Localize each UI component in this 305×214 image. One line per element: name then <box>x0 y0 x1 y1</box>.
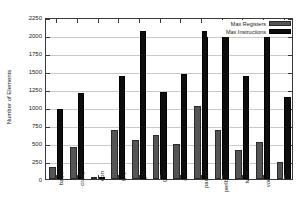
plot-area <box>45 18 293 180</box>
bar-max-registers <box>91 177 98 179</box>
y-axis-tick-label: 750 <box>18 123 42 129</box>
y-axis-tick-labels: 0250500750100012501500175020002250 <box>16 18 42 180</box>
x-axis-tick-label: bzip2 <box>58 171 65 211</box>
y-axis-tick-label: 2250 <box>18 15 42 21</box>
y-axis-tick <box>46 91 50 92</box>
legend-entry-max-instructions: Max Instructions <box>207 28 291 35</box>
y-axis-tick-label: 1500 <box>18 69 42 75</box>
x-axis-tick <box>201 19 202 23</box>
legend-label-max-instructions: Max Instructions <box>226 29 266 35</box>
bar-max-instructions <box>222 31 229 179</box>
x-axis-tick <box>77 175 78 179</box>
y-axis-tick <box>288 73 292 74</box>
x-axis-tick-label: mcf <box>182 171 189 211</box>
bar-max-registers <box>277 162 284 179</box>
x-axis-tick <box>201 175 202 179</box>
y-axis-tick <box>46 55 50 56</box>
gridline <box>46 55 292 56</box>
bar-max-instructions <box>140 31 147 179</box>
x-axis-tick-label: gzip <box>161 171 168 211</box>
y-axis-tick-label: 500 <box>18 141 42 147</box>
y-axis-tick <box>46 37 50 38</box>
bar-chart: Number of Elements 025050075010001250150… <box>0 0 305 214</box>
y-axis-tick <box>46 145 50 146</box>
legend-label-max-registers: Max Registers <box>231 21 266 27</box>
legend-swatch-max-registers <box>269 21 291 26</box>
x-axis-tick-labels: bzip2craftyeongapgccgzipmcfparserperlbmk… <box>45 180 293 214</box>
x-axis-tick <box>118 19 119 23</box>
x-axis-tick-label: twolf <box>244 171 251 211</box>
x-axis-tick-label: parser <box>203 171 210 211</box>
x-axis-tick <box>139 175 140 179</box>
y-axis-title: Number of Elements <box>2 14 16 180</box>
y-axis-title-wrapper: Number of Elements <box>2 14 16 180</box>
x-axis-tick <box>56 19 57 23</box>
y-axis-tick <box>46 163 50 164</box>
y-axis-tick-label: 1250 <box>18 87 42 93</box>
bar-max-registers <box>111 130 118 179</box>
bar-max-registers <box>173 144 180 179</box>
bar-max-instructions <box>243 76 250 179</box>
bar-max-instructions <box>264 31 271 179</box>
y-axis-tick-label: 250 <box>18 159 42 165</box>
bar-max-instructions <box>284 97 291 179</box>
bar-max-instructions <box>181 74 188 179</box>
x-axis-tick-label: crafty <box>79 171 86 211</box>
y-axis-tick-label: 1000 <box>18 105 42 111</box>
x-axis-tick-label: gcc <box>141 171 148 211</box>
bar-max-instructions <box>202 31 209 179</box>
x-axis-tick-label: gap <box>120 171 127 211</box>
x-axis-tick-label: eon <box>99 171 106 211</box>
legend-entry-max-registers: Max Registers <box>207 20 291 27</box>
x-axis-tick <box>263 175 264 179</box>
bar-max-instructions <box>78 93 85 179</box>
y-axis-tick <box>46 127 50 128</box>
x-axis-tick <box>160 19 161 23</box>
legend-swatch-max-instructions <box>269 29 291 34</box>
bar-max-registers <box>153 135 160 179</box>
gridline <box>46 73 292 74</box>
x-axis-tick-label: vpr <box>285 171 292 211</box>
y-axis-tick <box>46 73 50 74</box>
chart-legend: Max Registers Max Instructions <box>207 20 291 37</box>
x-axis-tick-label: vortex <box>265 171 272 211</box>
y-axis-tick-label: 0 <box>18 177 42 183</box>
x-axis-tick-label: perlbmk <box>223 171 230 211</box>
bar-max-registers <box>215 130 222 179</box>
x-axis-tick <box>180 19 181 23</box>
bar-max-instructions <box>119 76 126 179</box>
bar-max-registers <box>256 142 263 179</box>
bar-max-registers <box>132 140 139 179</box>
y-axis-tick <box>288 91 292 92</box>
y-axis-tick <box>288 55 292 56</box>
x-axis-tick <box>98 19 99 23</box>
y-axis-tick-label: 2000 <box>18 33 42 39</box>
bar-max-registers <box>235 150 242 179</box>
bar-max-instructions <box>160 92 167 179</box>
y-axis-tick <box>46 19 50 20</box>
bar-max-registers <box>70 147 77 179</box>
y-axis-tick-label: 1750 <box>18 51 42 57</box>
bar-max-registers <box>49 167 56 179</box>
bar-max-registers <box>194 106 201 179</box>
gridline <box>46 91 292 92</box>
bar-max-instructions <box>57 109 64 179</box>
x-axis-tick <box>139 19 140 23</box>
x-axis-tick <box>77 19 78 23</box>
y-axis-tick <box>46 109 50 110</box>
